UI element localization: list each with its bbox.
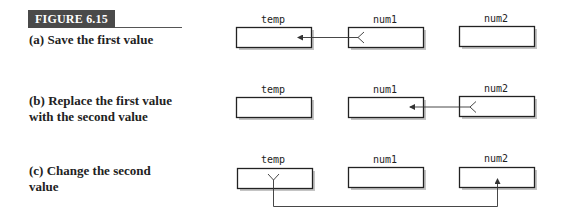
box-num1 (349, 28, 424, 48)
label-temp: temp (261, 84, 285, 95)
label-num1: num1 (373, 14, 397, 25)
label-num2: num2 (484, 13, 508, 24)
swap-diagram: temp num1 num2 temp num1 num2 temp (0, 0, 569, 217)
box-num1 (349, 168, 424, 188)
row-a: temp num1 num2 (237, 13, 538, 50)
box-num2 (460, 27, 535, 47)
label-num1: num1 (373, 154, 397, 165)
label-num2: num2 (484, 83, 508, 94)
box-num1 (349, 98, 424, 118)
label-num1: num1 (373, 84, 397, 95)
label-num2: num2 (484, 153, 508, 164)
row-c: temp num1 num2 (238, 153, 538, 207)
label-temp: temp (261, 14, 285, 25)
box-num2 (460, 168, 535, 188)
label-temp: temp (261, 154, 285, 165)
box-temp (237, 98, 312, 118)
row-b: temp num1 num2 (237, 83, 538, 120)
